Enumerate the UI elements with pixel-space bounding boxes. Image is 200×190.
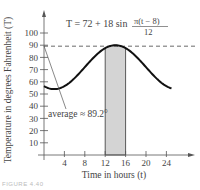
- y-tick-label: 40: [29, 101, 39, 111]
- x-tick-label: 12: [101, 158, 110, 168]
- y-tick-label: 30: [29, 114, 39, 124]
- temperature-chart: 102030405060708090100 4812162024 average…: [0, 0, 200, 190]
- x-tick-label: 24: [162, 158, 172, 168]
- shaded-area: [105, 45, 125, 155]
- y-axis-label: Temperature in degrees Fahrenheit (T): [3, 17, 14, 164]
- x-tick-label: 4: [62, 158, 67, 168]
- x-tick-label: 16: [121, 158, 131, 168]
- x-axis-arrow-icon: [188, 153, 195, 157]
- annotation-pointer: [44, 46, 66, 109]
- figure-caption: FIGURE 4.40: [2, 181, 44, 187]
- average-annotation: average ≈ 89.2°: [48, 109, 108, 119]
- x-axis-label: Time in hours (t): [82, 170, 146, 181]
- x-tick-label: 8: [83, 158, 88, 168]
- equation-denominator: 12: [144, 27, 153, 37]
- y-tick-label: 90: [29, 40, 39, 50]
- y-tick-label: 10: [29, 138, 39, 148]
- x-tick-label: 20: [142, 158, 152, 168]
- y-tick-label: 60: [29, 77, 39, 87]
- y-tick-label: 80: [29, 53, 39, 63]
- equation-numerator: π(t − 8): [134, 16, 160, 26]
- y-tick-label: 20: [29, 126, 39, 136]
- shaded-region: [105, 45, 125, 155]
- equation-lhs: T = 72 + 18 sin: [66, 18, 127, 29]
- y-tick-label: 50: [29, 89, 39, 99]
- y-tick-label: 100: [25, 28, 39, 38]
- y-tick-label: 70: [29, 65, 39, 75]
- y-axis-arrow-icon: [42, 10, 46, 17]
